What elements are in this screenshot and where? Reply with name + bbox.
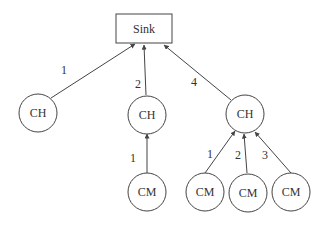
edge-label-cm2: 1 xyxy=(207,147,213,161)
edge-label-ch3: 4 xyxy=(191,75,197,89)
cluster-member-1: CM xyxy=(128,173,166,211)
edge-label-cm3: 2 xyxy=(235,148,241,162)
edge-ch2-to-sink xyxy=(144,45,146,95)
edge-label-ch1: 1 xyxy=(61,63,67,77)
cluster-member-label: CM xyxy=(239,186,258,200)
edge-cm4-to-ch3 xyxy=(255,132,291,173)
cluster-member-label: CM xyxy=(138,185,157,199)
cluster-member-4: CM xyxy=(272,173,310,211)
sink-node: Sink xyxy=(116,14,172,43)
edge-label-cm4: 3 xyxy=(262,148,268,162)
edge-ch3-to-sink xyxy=(164,45,231,100)
edge-label-cm1: 1 xyxy=(130,151,136,165)
cluster-head-label: CH xyxy=(139,108,156,122)
sink-label: Sink xyxy=(133,22,155,36)
edge-cm3-to-ch3 xyxy=(244,134,247,173)
cluster-head-label: CH xyxy=(30,106,47,120)
edge-label-ch2: 2 xyxy=(135,77,141,91)
cluster-head-label: CH xyxy=(237,107,254,121)
cluster-member-label: CM xyxy=(196,185,215,199)
cluster-head-3: CH xyxy=(226,95,264,133)
cluster-member-3: CM xyxy=(229,174,267,212)
cluster-member-label: CM xyxy=(282,185,301,199)
cluster-member-2: CM xyxy=(186,173,224,211)
cluster-head-2: CH xyxy=(128,96,166,134)
tree-diagram: Sink CH CH CH CM CM CM CM 1 2 4 1 1 2 3 xyxy=(0,0,328,226)
cluster-head-1: CH xyxy=(19,94,57,132)
